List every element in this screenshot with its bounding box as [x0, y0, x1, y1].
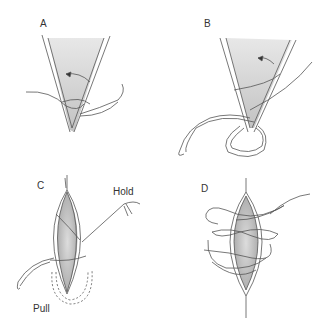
annotation-pull: Pull [33, 303, 50, 314]
panel-d-illustration [204, 178, 310, 318]
panel-label-d: D [201, 183, 208, 194]
panel-a-illustration [26, 35, 123, 132]
panel-label-b: B [204, 18, 211, 29]
annotation-hold: Hold [113, 186, 134, 197]
panel-label-a: A [40, 18, 47, 29]
suture-diagram [0, 0, 333, 324]
panel-label-c: C [37, 180, 44, 191]
panel-b-illustration [179, 38, 312, 157]
